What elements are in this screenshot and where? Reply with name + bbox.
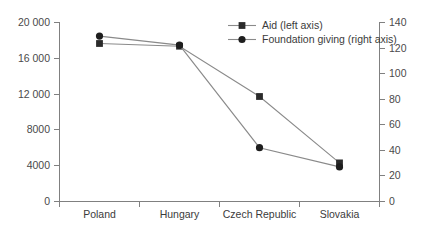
left-axis-ticks bbox=[54, 23, 60, 202]
left-tick-label: 16 000 bbox=[18, 52, 50, 64]
legend-label-aid: Aid (left axis) bbox=[262, 19, 323, 31]
dual-axis-line-chart: 20 000 16 000 12 000 8000 4000 0 140 120… bbox=[0, 0, 438, 236]
category-label-slovakia: Slovakia bbox=[320, 208, 360, 220]
right-tick-label: 40 bbox=[389, 144, 401, 156]
right-tick-label: 60 bbox=[389, 118, 401, 130]
chart-container: 20 000 16 000 12 000 8000 4000 0 140 120… bbox=[0, 0, 438, 236]
data-point-foundation-giving-poland bbox=[96, 33, 103, 40]
series-aid-line bbox=[100, 44, 340, 163]
legend-marker-square-icon bbox=[239, 22, 246, 29]
x-axis-category-labels: Poland Hungary Czech Republic Slovakia bbox=[83, 208, 359, 220]
legend-item-aid[interactable]: Aid (left axis) bbox=[228, 19, 323, 31]
legend-item-foundation-giving[interactable]: Foundation giving (right axis) bbox=[228, 33, 397, 45]
right-tick-label: 140 bbox=[389, 16, 407, 28]
left-tick-label: 4000 bbox=[27, 159, 51, 171]
left-tick-label: 12 000 bbox=[18, 88, 50, 100]
data-point-foundation-giving-slovakia bbox=[336, 163, 343, 170]
category-label-czech-republic: Czech Republic bbox=[223, 208, 297, 220]
right-tick-label: 20 bbox=[389, 169, 401, 181]
left-axis-tick-labels: 20 000 16 000 12 000 8000 4000 0 bbox=[18, 16, 50, 207]
series-foundation-giving bbox=[96, 33, 343, 171]
right-tick-label: 100 bbox=[389, 67, 407, 79]
data-point-foundation-giving-hungary bbox=[176, 42, 183, 49]
data-point-foundation-giving-czech-republic bbox=[256, 144, 263, 151]
data-point-aid-czech-republic bbox=[256, 93, 263, 100]
left-tick-label: 20 000 bbox=[18, 16, 50, 28]
legend-marker-circle-icon bbox=[238, 36, 245, 43]
right-tick-label: 80 bbox=[389, 93, 401, 105]
category-label-poland: Poland bbox=[83, 208, 116, 220]
right-axis-ticks bbox=[380, 23, 386, 202]
legend-label-foundation-giving: Foundation giving (right axis) bbox=[262, 33, 397, 45]
right-tick-label: 0 bbox=[389, 195, 395, 207]
chart-legend: Aid (left axis) Foundation giving (right… bbox=[228, 19, 397, 45]
left-tick-label: 0 bbox=[44, 195, 50, 207]
left-tick-label: 8000 bbox=[27, 123, 51, 135]
series-foundation-giving-line bbox=[100, 36, 340, 167]
x-axis-ticks bbox=[60, 202, 380, 208]
data-point-aid-poland bbox=[96, 40, 103, 47]
series-aid bbox=[96, 40, 343, 166]
category-label-hungary: Hungary bbox=[160, 208, 200, 220]
